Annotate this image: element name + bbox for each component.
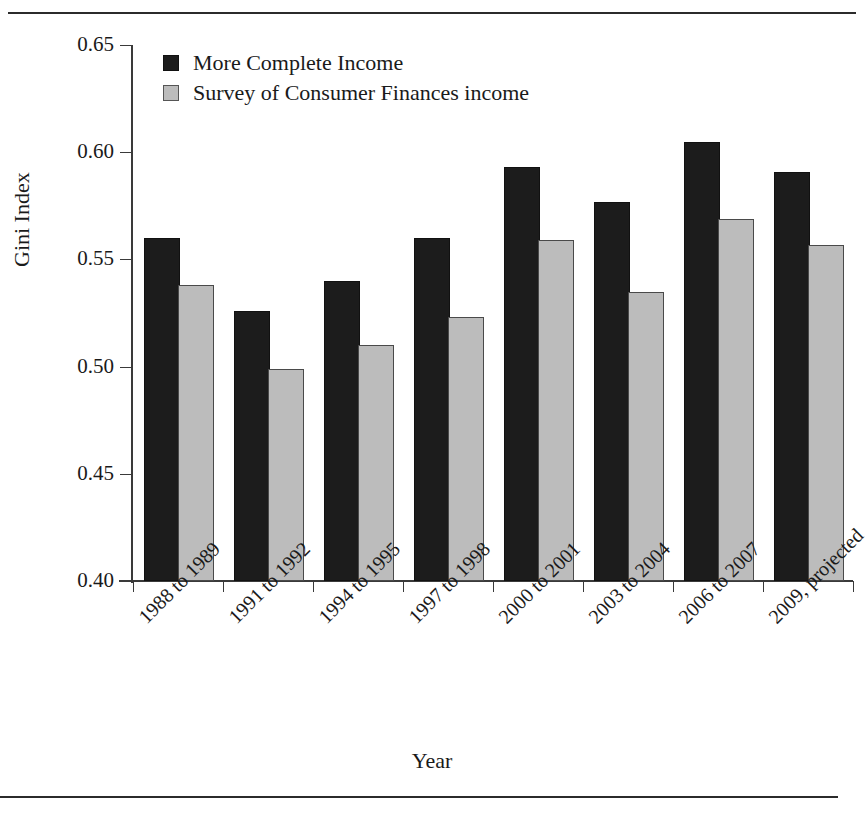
y-axis-tick-label: 0.45 xyxy=(52,463,114,484)
dark-square-icon xyxy=(163,55,179,71)
bar[interactable] xyxy=(774,172,810,581)
legend-item-more-complete-income: More Complete Income xyxy=(163,48,583,78)
bar-group xyxy=(234,45,302,581)
x-axis-tick xyxy=(583,581,584,592)
x-axis-tick xyxy=(403,581,404,592)
y-axis-tick-label-text: 0.60 xyxy=(58,141,114,162)
bar[interactable] xyxy=(144,238,180,581)
y-axis-title: Gini Index xyxy=(9,223,35,267)
y-axis-tick-label: 0.55 xyxy=(52,248,114,269)
y-axis-tick-label-text: 0.45 xyxy=(58,463,114,484)
y-axis-tick xyxy=(120,367,132,368)
y-axis-tick xyxy=(120,152,132,153)
y-axis-tick-label-text: 0.65 xyxy=(58,34,114,55)
y-axis-tick-label-text: 0.40 xyxy=(58,570,114,591)
legend-item-survey-of-consumer-finances-income: Survey of Consumer Finances income xyxy=(163,78,583,108)
bar-group xyxy=(414,45,482,581)
legend-label-survey-of-consumer-finances-income: Survey of Consumer Finances income xyxy=(193,80,529,106)
chart-legend: More Complete Income Survey of Consumer … xyxy=(163,48,583,108)
bar[interactable] xyxy=(684,142,720,581)
y-axis-tick-label: 0.50 xyxy=(52,356,114,377)
y-axis-tick-label: 0.60 xyxy=(52,141,114,162)
bar-group xyxy=(504,45,572,581)
bar-group xyxy=(144,45,212,581)
y-axis-tick-label: 0.40 xyxy=(52,570,114,591)
x-axis-tick xyxy=(133,581,134,592)
x-axis-tick xyxy=(673,581,674,592)
y-axis-title-text: Gini Index xyxy=(9,223,35,267)
x-axis-tick xyxy=(313,581,314,592)
y-axis-tick-label-text: 0.55 xyxy=(58,248,114,269)
x-axis-title: Year xyxy=(0,748,864,774)
bar[interactable] xyxy=(538,240,574,581)
bar[interactable] xyxy=(718,219,754,581)
y-axis-tick-label-text: 0.50 xyxy=(58,356,114,377)
legend-label-more-complete-income: More Complete Income xyxy=(193,50,403,76)
y-axis-tick xyxy=(120,581,132,582)
y-axis-tick xyxy=(120,259,132,260)
bar[interactable] xyxy=(234,311,270,581)
y-axis-tick xyxy=(120,474,132,475)
bar[interactable] xyxy=(324,281,360,581)
bar-group xyxy=(774,45,842,581)
x-axis-tick xyxy=(763,581,764,592)
x-axis-tick xyxy=(853,581,854,592)
bar[interactable] xyxy=(594,202,630,581)
y-axis-tick-label: 0.65 xyxy=(52,34,114,55)
plot-area xyxy=(133,45,853,581)
bar-group xyxy=(324,45,392,581)
bar-group xyxy=(684,45,752,581)
x-axis-tick xyxy=(493,581,494,592)
y-axis-tick xyxy=(120,45,132,46)
bar[interactable] xyxy=(504,167,540,581)
bar[interactable] xyxy=(414,238,450,581)
bar[interactable] xyxy=(808,245,844,581)
light-square-icon xyxy=(163,85,179,101)
bar-group xyxy=(594,45,662,581)
x-axis-tick xyxy=(223,581,224,592)
